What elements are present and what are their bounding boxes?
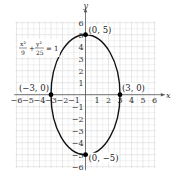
- ellipse-chart: xy −6−5−4−3−2−1123456−6−5−4−3−2−1123456 …: [0, 0, 171, 172]
- x-tick-label: 5: [140, 96, 145, 105]
- point-label: (3, 0): [122, 83, 145, 93]
- point-marker: [83, 32, 88, 37]
- y-tick-label: 1: [78, 79, 83, 88]
- x-axis-label: x: [166, 91, 171, 100]
- y-tick-label: −6: [72, 163, 84, 172]
- eq-plus: +: [29, 45, 35, 53]
- y-tick-label: −4: [72, 139, 84, 148]
- point-label: (−3, 0): [19, 83, 49, 93]
- y-tick-label: 4: [78, 43, 83, 52]
- y-tick-label: −1: [72, 103, 84, 112]
- x-tick-label: −6: [11, 96, 23, 105]
- x-tick-label: 4: [129, 96, 134, 105]
- point-marker: [49, 92, 54, 97]
- eq-y-num: y²: [35, 40, 42, 48]
- eq-x-num: x²: [20, 40, 26, 47]
- eq-y-den: 25: [36, 49, 44, 56]
- x-tick-label: −2: [57, 96, 69, 105]
- point-label: (0, −5): [89, 153, 119, 163]
- eq-x-den: 9: [21, 49, 25, 56]
- point-marker: [83, 152, 88, 157]
- x-tick-label: 6: [152, 96, 157, 105]
- y-axis-label: y: [83, 1, 89, 10]
- y-tick-label: −2: [72, 115, 84, 124]
- y-tick-label: 3: [78, 55, 83, 64]
- point-label: (0, 5): [89, 25, 112, 35]
- y-tick-label: 6: [78, 19, 83, 28]
- x-tick-label: −4: [34, 96, 46, 105]
- x-tick-label: 1: [94, 96, 99, 105]
- equation-annotation: x² 9 + y² 25 = 1: [18, 39, 60, 57]
- y-tick-label: −3: [72, 127, 84, 136]
- x-tick-label: 2: [106, 96, 111, 105]
- x-tick-label: −5: [22, 96, 34, 105]
- y-tick-label: 2: [78, 67, 83, 76]
- eq-rhs: = 1: [46, 45, 59, 53]
- x-axis-arrow-icon: [161, 93, 165, 97]
- y-tick-label: −5: [72, 151, 84, 160]
- point-marker: [118, 92, 123, 97]
